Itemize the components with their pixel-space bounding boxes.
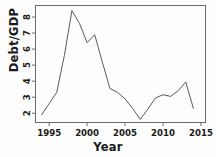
- y-tick-label: 6: [22, 46, 32, 52]
- x-axis-title: Year: [0, 140, 216, 154]
- y-tick-label: 5: [22, 62, 32, 68]
- x-tick-label: 2015: [189, 128, 213, 138]
- chart-container: 2345678 19952000200520102015 Debt/GDP Ye…: [0, 0, 216, 157]
- y-axis-ticks: 2345678: [22, 14, 36, 116]
- plot-frame: [36, 6, 206, 123]
- data-series-group: [42, 11, 194, 120]
- x-tick-label: 2000: [75, 128, 99, 138]
- line-chart-plot: 2345678 19952000200520102015: [0, 0, 216, 157]
- y-axis-title: Debt/GDP: [7, 0, 21, 82]
- x-axis-title-text: Year: [93, 140, 122, 154]
- y-tick-label: 4: [22, 78, 32, 84]
- y-tick-label: 7: [22, 30, 32, 36]
- x-axis-ticks: 19952000200520102015: [37, 123, 213, 139]
- x-tick-label: 2005: [113, 128, 137, 138]
- x-tick-label: 2010: [151, 128, 175, 138]
- x-tick-label: 1995: [37, 128, 61, 138]
- series-line-debt-gdp: [42, 11, 194, 120]
- y-tick-label: 3: [22, 94, 32, 100]
- y-axis-title-text: Debt/GDP: [7, 8, 21, 72]
- y-tick-label: 8: [22, 14, 32, 20]
- y-tick-label: 2: [22, 110, 32, 116]
